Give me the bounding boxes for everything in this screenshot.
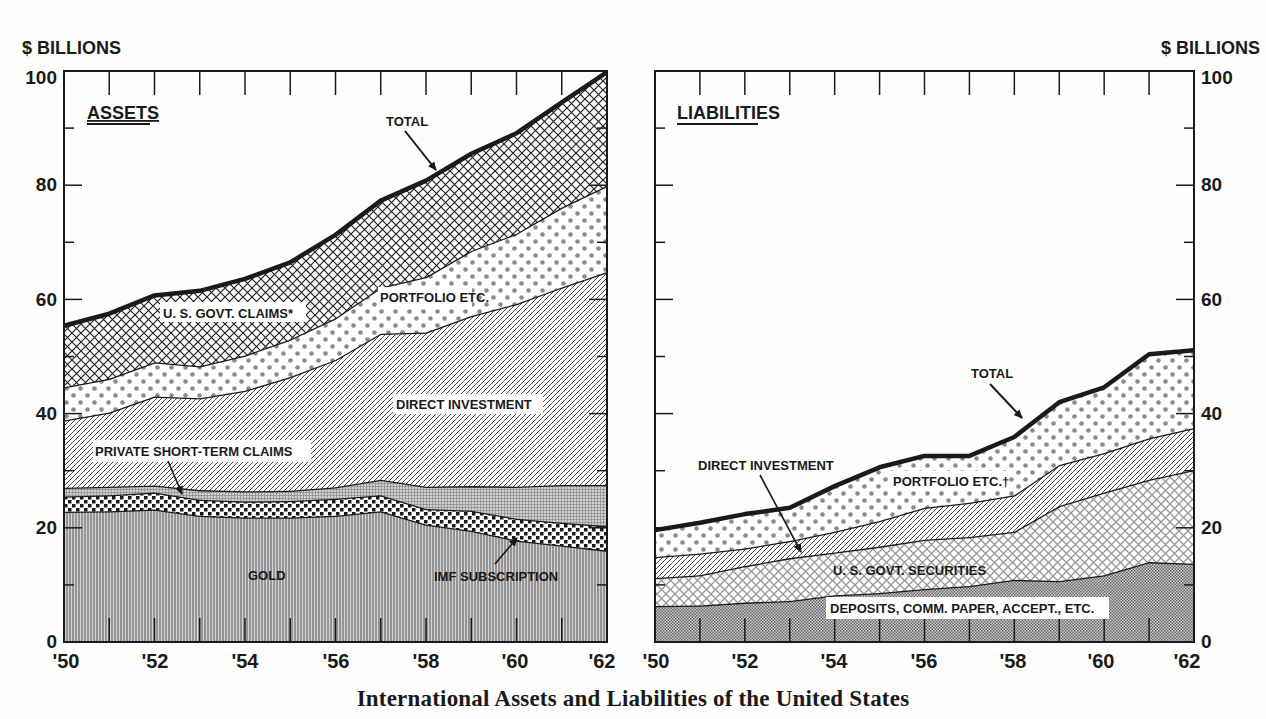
liabilities-ytick-label: 20 — [1201, 517, 1222, 538]
assets-imf-label: IMF SUBSCRIPTION — [434, 569, 558, 584]
liabilities-xtick-label: '60 — [1087, 650, 1114, 672]
liabilities-govt-securities-label: U. S. GOVT. SECURITIES — [833, 563, 986, 578]
assets-xtick-label: '52 — [141, 650, 168, 672]
assets-gold-label: GOLD — [248, 568, 286, 583]
chart-canvas: $ BILLIONS $ BILLIONS 0 20 40 60 80 100 … — [0, 0, 1266, 719]
liabilities-xtick-label: '62 — [1173, 650, 1200, 672]
liabilities-xtick-label: '54 — [820, 650, 848, 672]
assets-direct-investment-label: DIRECT INVESTMENT — [396, 397, 532, 412]
assets-ytick-label: 80 — [36, 174, 57, 195]
liabilities-total-arrow — [990, 384, 1022, 418]
liabilities-deposits-label: DEPOSITS, COMM. PAPER, ACCEPT., ETC. — [830, 601, 1094, 616]
liabilities-ytick-label: 60 — [1201, 289, 1222, 310]
assets-xtick-label: '60 — [501, 650, 528, 672]
liabilities-xtick-label: '56 — [910, 650, 937, 672]
assets-unit-label: $ BILLIONS — [22, 38, 121, 58]
liabilities-portfolio-label: PORTFOLIO ETC.† — [893, 474, 1009, 489]
assets-panel-title: ASSETS — [87, 103, 159, 123]
assets-ytick-label: 60 — [36, 289, 57, 310]
liabilities-xtick-label: '52 — [731, 650, 758, 672]
assets-ytick-label: 20 — [36, 517, 57, 538]
liabilities-total-label: TOTAL — [971, 366, 1013, 381]
liabilities-panel-title: LIABILITIES — [677, 103, 780, 123]
assets-govt-claims-label: U. S. GOVT. CLAIMS* — [163, 306, 294, 321]
assets-xtick-label: '50 — [52, 650, 79, 672]
assets-xtick-label: '62 — [588, 650, 615, 672]
liabilities-ytick-label: 40 — [1201, 403, 1222, 424]
liabilities-ytick-label: 100 — [1201, 67, 1233, 88]
assets-xtick-label: '58 — [412, 650, 439, 672]
assets-xtick-label: '54 — [231, 650, 259, 672]
liabilities-xtick-label: '50 — [642, 650, 669, 672]
assets-stacked-areas — [64, 72, 607, 642]
assets-ytick-label: 0 — [46, 631, 57, 652]
chart-figure: $ BILLIONS $ BILLIONS 0 20 40 60 80 100 … — [0, 0, 1266, 719]
liabilities-ytick-label: 0 — [1201, 631, 1212, 652]
assets-ytick-label: 100 — [25, 67, 57, 88]
assets-private-short-term-label: PRIVATE SHORT-TERM CLAIMS — [95, 444, 293, 459]
assets-xtick-label: '56 — [322, 650, 349, 672]
assets-ytick-label: 40 — [36, 403, 57, 424]
liabilities-unit-label: $ BILLIONS — [1161, 38, 1260, 58]
assets-portfolio-label: PORTFOLIO ETC. — [380, 290, 489, 305]
liabilities-ytick-label: 80 — [1201, 174, 1222, 195]
liabilities-direct-investment-label: DIRECT INVESTMENT — [698, 458, 834, 473]
liabilities-xtick-label: '58 — [999, 650, 1026, 672]
figure-caption: International Assets and Liabilities of … — [0, 686, 1266, 712]
assets-total-label: TOTAL — [386, 114, 428, 129]
assets-total-arrow — [405, 131, 436, 170]
